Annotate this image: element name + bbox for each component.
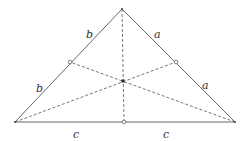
triangle xyxy=(15,9,235,122)
triangle-median-diagram: b b a a c c xyxy=(0,0,246,141)
label-base-left: c xyxy=(73,128,79,141)
label-left-lower: b xyxy=(36,82,43,95)
vertex-top xyxy=(121,8,123,10)
midpoint-left-side xyxy=(68,60,72,64)
centroid-point xyxy=(122,80,125,83)
medians xyxy=(15,9,235,122)
median-from-top xyxy=(122,9,124,122)
label-left-upper: b xyxy=(86,28,93,41)
vertex-right xyxy=(234,121,236,123)
label-base-right: c xyxy=(163,128,169,141)
vertex-left xyxy=(14,121,16,123)
label-right-upper: a xyxy=(154,28,161,41)
label-right-lower: a xyxy=(202,79,209,92)
midpoint-right-side xyxy=(174,60,178,64)
midpoint-base xyxy=(122,120,126,124)
